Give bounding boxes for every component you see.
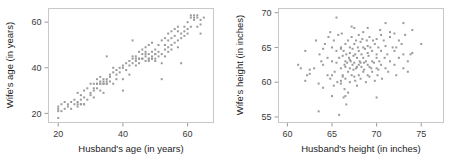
height-data-point [377,74,379,76]
height-data-point [331,60,333,62]
age-data-point [145,55,147,57]
age-data-point [103,80,105,82]
height-data-point [393,33,395,35]
age-data-point [187,28,189,30]
age-data-point [86,87,88,89]
height-data-point [384,57,386,59]
height-data-point [401,43,403,45]
age-axes-group: 204060204060 [31,17,192,138]
height-data-point [371,60,373,62]
age-data-point [57,110,59,112]
height-data-point [352,69,354,71]
height-data-point [347,92,349,94]
height-data-point [347,71,349,73]
age-data-point [161,53,163,55]
age-plot-frame [49,9,214,123]
age-data-point [177,26,179,28]
height-data-point [368,76,370,78]
height-data-point [356,66,358,68]
height-data-point [381,78,383,80]
age-data-point [99,90,101,92]
age-data-points [57,14,205,119]
height-data-point [349,59,351,61]
age-data-point [167,33,169,35]
height-data-point [368,36,370,38]
age-y-tick-label: 20 [31,109,41,119]
height-data-point [371,71,373,73]
age-data-point [83,103,85,105]
height-data-point [340,67,342,69]
age-data-point [180,62,182,64]
height-data-point [385,45,387,47]
height-data-point [368,55,370,57]
age-data-point [151,51,153,53]
height-data-point [407,71,409,73]
age-data-point [174,28,176,30]
age-data-point [64,108,66,110]
height-data-point [358,74,360,76]
height-axes-group: 6065707555606570 [261,8,426,139]
age-data-point [170,37,172,39]
height-data-point [380,64,382,66]
height-data-point [354,80,356,82]
height-data-point [353,76,355,78]
age-data-point [135,58,137,60]
height-data-point [393,64,395,66]
age-data-point [73,103,75,105]
age-data-point [174,42,176,44]
height-data-point [360,66,362,68]
height-data-point [353,43,355,45]
age-data-point [90,92,92,94]
height-data-point [331,74,333,76]
age-data-point [132,62,134,64]
height-data-point [373,62,375,64]
age-x-axis-title: Husband's age (in years) [78,143,183,154]
age-data-point [93,87,95,89]
height-data-point [322,48,324,50]
age-data-point [80,103,82,105]
age-data-point [138,58,140,60]
age-x-tick-label: 60 [183,129,193,139]
height-data-point [420,43,422,45]
age-data-point [193,14,195,16]
height-data-point [300,67,302,69]
height-y-tick-label: 70 [261,8,271,18]
height-data-point [379,29,381,31]
age-data-point [161,62,163,64]
age-data-point [115,74,117,76]
age-data-point [106,83,108,85]
height-data-point [362,31,364,33]
age-data-point [167,46,169,48]
age-data-point [158,55,160,57]
height-data-point [315,39,317,41]
height-data-point [360,62,362,64]
height-data-point [385,67,387,69]
height-y-tick-label: 55 [261,112,271,122]
height-data-point [387,71,389,73]
height-data-point [329,78,331,80]
age-data-point [109,74,111,76]
height-data-point [344,88,346,90]
height-data-point [356,57,358,59]
age-data-point [96,83,98,85]
age-data-point [167,39,169,41]
height-data-point [352,55,354,57]
age-data-point [132,55,134,57]
height-data-point [331,95,333,97]
height-y-axis-title: Wife's height (in inches) [234,15,245,116]
age-data-point [167,51,169,53]
height-data-point [377,46,379,48]
age-data-point [187,33,189,35]
age-data-point [148,60,150,62]
height-data-point [364,48,366,50]
age-data-point [164,55,166,57]
height-plot-frame [279,9,444,123]
age-data-point [190,14,192,16]
height-data-point [356,85,358,87]
age-data-point [115,78,117,80]
age-data-point [164,37,166,39]
age-data-point [86,99,88,101]
age-data-point [135,65,137,67]
height-data-point [335,17,337,19]
height-data-point [371,50,373,52]
